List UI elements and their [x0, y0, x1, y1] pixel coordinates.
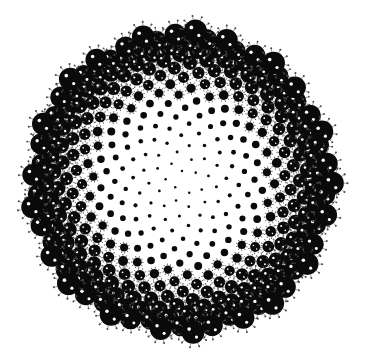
virus-particle — [164, 178, 167, 181]
virus-particle — [111, 97, 126, 111]
virus-particle — [188, 191, 190, 193]
virus-particle — [235, 204, 240, 209]
virus-particle — [221, 249, 229, 257]
virus-particle — [208, 124, 213, 129]
virus-particle — [138, 139, 143, 144]
virus-particle — [109, 141, 116, 148]
virus-particle — [215, 185, 218, 188]
virus-particle — [240, 136, 247, 143]
virus-particle — [248, 240, 262, 254]
virus-particle — [162, 264, 174, 276]
virus-particle — [107, 111, 120, 124]
virus-particle — [146, 100, 154, 108]
virus-particle — [147, 182, 150, 185]
virus-particle — [167, 126, 171, 130]
virus-particle — [190, 158, 193, 161]
virus-particle — [165, 100, 172, 107]
virus-particle — [149, 201, 152, 204]
virus-particle — [131, 157, 135, 161]
virus-phyllotaxis-pattern — [0, 0, 365, 359]
virus-particle — [91, 125, 105, 139]
virus-particle — [182, 105, 188, 111]
virus-particle — [156, 167, 159, 170]
virus-particle — [176, 259, 183, 266]
virus-particle — [267, 134, 281, 149]
virus-particle — [194, 171, 197, 174]
virus-particle — [242, 169, 247, 174]
virus-particle — [101, 250, 117, 265]
virus-particle — [178, 214, 181, 217]
virus-particle — [199, 228, 203, 232]
virus-particle — [251, 227, 264, 240]
virus-particle — [207, 175, 210, 178]
virus-particle — [251, 177, 257, 183]
virus-particle — [246, 106, 260, 120]
virus-particle — [125, 102, 137, 114]
virus-particle — [230, 252, 243, 265]
virus-particle — [224, 176, 228, 180]
virus-particle — [236, 239, 247, 251]
virus-particle — [222, 263, 236, 278]
virus-particle — [225, 237, 231, 243]
virus-particle — [263, 224, 278, 239]
virus-particle — [75, 177, 89, 191]
virus-particle — [218, 151, 222, 155]
virus-particle — [181, 269, 194, 281]
virus-particle — [259, 187, 266, 194]
virus-particle — [125, 145, 130, 150]
virus-particle — [120, 215, 126, 221]
virus-particle — [120, 200, 125, 205]
virus-particle — [253, 215, 261, 223]
virus-particle — [116, 254, 130, 268]
virus-particle — [97, 184, 104, 191]
virus-particle — [107, 127, 115, 135]
virus-particle — [226, 224, 231, 229]
virus-particle — [173, 114, 178, 119]
virus-particle — [215, 164, 218, 167]
virus-particle — [181, 236, 186, 241]
virus-particle — [212, 229, 217, 234]
virus-particle — [233, 120, 240, 127]
virus-particle — [170, 162, 173, 165]
virus-particle — [188, 144, 191, 147]
virus-particle — [197, 113, 203, 119]
virus-particle — [134, 245, 141, 252]
virus-particle — [211, 215, 215, 219]
virus-particle — [125, 230, 131, 236]
virus-particle — [221, 105, 229, 113]
virus-particle — [78, 142, 93, 156]
virus-particle — [203, 144, 207, 148]
virus-particle — [187, 251, 193, 257]
virus-particle — [84, 190, 97, 203]
virus-particle — [194, 241, 199, 246]
virus-particle — [152, 138, 156, 142]
virus-particle — [231, 150, 236, 155]
virus-particle — [245, 92, 262, 108]
virus-particle — [243, 153, 249, 159]
virus-particle — [228, 193, 232, 197]
virus-particle — [131, 256, 144, 268]
virus-particle — [273, 190, 287, 205]
virus-particle — [157, 111, 163, 117]
virus-particle — [176, 151, 179, 154]
virus-particle — [193, 97, 200, 104]
virus-particle — [187, 205, 190, 208]
virus-particle — [104, 238, 117, 251]
virus-particle — [256, 126, 269, 139]
virus-particle — [244, 121, 256, 133]
virus-particle — [140, 112, 147, 119]
virus-particle — [133, 203, 137, 207]
virus-particle — [174, 186, 176, 188]
virus-dots-group — [17, 15, 349, 348]
virus-particle — [107, 210, 114, 217]
virus-particle — [92, 140, 104, 152]
virus-particle — [153, 124, 158, 129]
virus-particle — [220, 120, 226, 126]
virus-particle — [173, 89, 185, 100]
virus-particle — [108, 194, 114, 200]
virus-particle — [138, 230, 143, 235]
virus-particle — [201, 268, 215, 282]
virus-particle — [261, 146, 273, 159]
virus-particle — [157, 154, 160, 157]
virus-particle — [148, 267, 161, 280]
